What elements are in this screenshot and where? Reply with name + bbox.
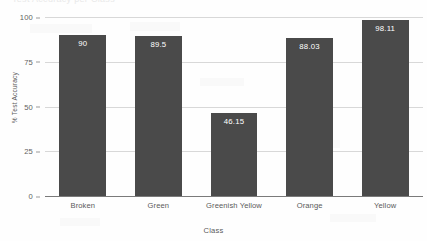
y-tick-label: 50 xyxy=(24,102,40,111)
plot-area: 0255075100 90Broken89.5Green46.15Greenis… xyxy=(45,17,423,196)
gridline-0 xyxy=(45,196,423,197)
scan-artifact xyxy=(330,214,376,222)
bar-greenish-yellow[interactable]: 46.15 xyxy=(211,113,258,196)
scan-artifact xyxy=(60,218,100,226)
bar-slot: 88.03Orange xyxy=(272,17,348,196)
bar-yellow[interactable]: 98.11 xyxy=(362,20,409,196)
bar-value-label: 88.03 xyxy=(286,42,333,51)
y-tick-mark xyxy=(36,62,40,63)
bar-green[interactable]: 89.5 xyxy=(135,36,182,196)
bar-value-label: 46.15 xyxy=(211,117,258,126)
x-tick-label-greenish-yellow: Greenish Yellow xyxy=(206,201,262,210)
y-tick-mark xyxy=(36,151,40,152)
x-axis-label: Class xyxy=(0,226,427,235)
x-tick-label-broken: Broken xyxy=(70,201,95,210)
y-tick-label: 0 xyxy=(29,192,40,201)
y-tick-label: 100 xyxy=(20,13,40,22)
y-tick-label: 25 xyxy=(24,147,40,156)
bar-slot: 90Broken xyxy=(45,17,121,196)
bar-broken[interactable]: 90 xyxy=(59,35,106,196)
bar-chart-figure: Test Accuracy per Class % Test Accuracy … xyxy=(0,0,427,241)
y-axis-label: % Test Accuracy xyxy=(11,58,18,138)
clipped-chart-title: Test Accuracy per Class xyxy=(12,0,115,4)
y-tick-mark xyxy=(36,107,40,108)
y-tick-mark xyxy=(36,196,40,197)
bar-value-label: 98.11 xyxy=(362,24,409,33)
bar-value-label: 89.5 xyxy=(135,40,182,49)
x-tick-label-green: Green xyxy=(148,201,170,210)
bar-slot: 89.5Green xyxy=(121,17,197,196)
x-tick-label-yellow: Yellow xyxy=(374,201,396,210)
bar-slot: 98.11Yellow xyxy=(347,17,423,196)
x-tick-label-orange: Orange xyxy=(297,201,323,210)
y-tick-label: 75 xyxy=(24,57,40,66)
bar-orange[interactable]: 88.03 xyxy=(286,38,333,196)
bar-value-label: 90 xyxy=(59,39,106,48)
bar-slot: 46.15Greenish Yellow xyxy=(196,17,272,196)
bar-group: 90Broken89.5Green46.15Greenish Yellow88.… xyxy=(45,17,423,196)
y-tick-mark xyxy=(36,17,40,18)
